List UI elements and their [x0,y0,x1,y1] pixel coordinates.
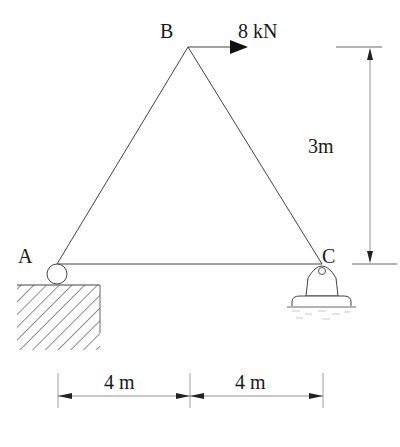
height-label: 3m [308,136,334,156]
span-right-label: 4 m [235,372,266,392]
truss-members [57,47,322,264]
roller-support-icon [17,264,100,350]
node-label-a: A [18,246,32,266]
node-label-c: C [322,246,335,266]
load-arrow-icon [188,40,248,54]
member-bc [188,47,322,264]
height-dimension [336,47,397,264]
member-ab [57,47,188,264]
load-label: 8 kN [238,21,277,41]
pin-support-icon [287,266,356,319]
node-label-b: B [160,21,173,41]
span-left-label: 4 m [104,372,135,392]
span-dimension [58,373,323,408]
truss-diagram [0,0,400,447]
